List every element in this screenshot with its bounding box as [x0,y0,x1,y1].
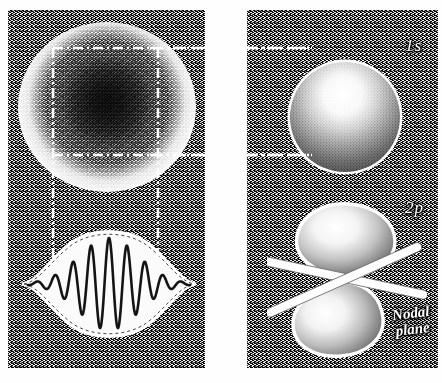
orbital-comparison-figure: 1s 2p Nodal plane [0,0,442,383]
panel-connectors [0,0,442,383]
